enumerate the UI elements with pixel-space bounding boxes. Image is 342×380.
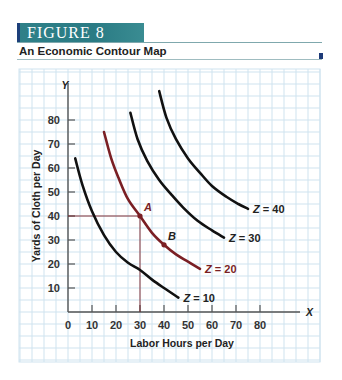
y-axis-symbol: Y [61, 79, 69, 91]
y-tick-label: 10 [48, 282, 60, 294]
y-tick-label: 40 [48, 210, 60, 222]
y-axis-title: Yards of Cloth per Day [30, 150, 42, 263]
contour-label: Z = 30 [228, 232, 261, 244]
point-a [137, 213, 142, 218]
y-tick-label: 70 [48, 138, 60, 150]
point-b [161, 242, 166, 247]
x-tick-label: 30 [134, 319, 146, 331]
y-tick-label: 60 [48, 162, 60, 174]
point-label-b: B [168, 230, 176, 242]
y-tick-label: 30 [48, 234, 60, 246]
x-tick-label: 50 [182, 319, 194, 331]
y-tick-label: 50 [48, 186, 60, 198]
contour-label: Z = 20 [204, 263, 237, 275]
x-tick-label: 0 [65, 319, 71, 331]
x-tick-label: 20 [110, 319, 122, 331]
contour-label: Z = 40 [252, 203, 285, 215]
contour-label: Z = 10 [182, 292, 215, 304]
y-tick-label: 20 [48, 258, 60, 270]
x-tick-label: 40 [158, 319, 170, 331]
x-axis-title: Labor Hours per Day [130, 337, 234, 349]
contour-chart: YX010203040506070801020304050607080Labor… [0, 0, 342, 380]
x-tick-label: 70 [230, 319, 242, 331]
y-tick-label: 80 [48, 114, 60, 126]
point-label-a: A [143, 201, 152, 213]
x-tick-label: 60 [206, 319, 218, 331]
x-tick-label: 80 [254, 319, 266, 331]
x-axis-symbol: X [305, 306, 314, 318]
x-tick-label: 10 [86, 319, 98, 331]
